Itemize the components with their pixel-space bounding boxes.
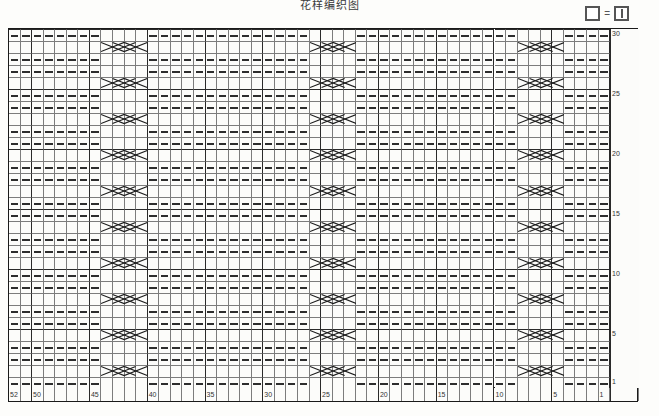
chart-cell[interactable] [206, 365, 218, 377]
chart-cell[interactable] [506, 329, 518, 341]
chart-cell[interactable] [564, 281, 576, 293]
chart-cell[interactable] [182, 353, 194, 365]
chart-cell[interactable] [240, 365, 252, 377]
chart-cell[interactable] [310, 137, 322, 149]
chart-cell[interactable] [310, 77, 322, 89]
chart-cell[interactable] [136, 89, 148, 101]
chart-cell[interactable] [21, 317, 33, 329]
chart-cell[interactable] [310, 233, 322, 245]
chart-cell[interactable] [495, 281, 507, 293]
chart-cell[interactable] [587, 65, 599, 77]
chart-cell[interactable] [390, 77, 402, 89]
chart-cell[interactable] [286, 185, 298, 197]
chart-cell[interactable] [217, 77, 229, 89]
chart-cell[interactable] [321, 53, 333, 65]
chart-cell[interactable] [44, 185, 56, 197]
chart-cell[interactable] [460, 125, 472, 137]
chart-cell[interactable] [240, 341, 252, 353]
chart-cell[interactable] [136, 305, 148, 317]
chart-cell[interactable] [21, 77, 33, 89]
chart-cell[interactable] [32, 341, 44, 353]
chart-cell[interactable] [552, 221, 564, 233]
chart-cell[interactable] [182, 65, 194, 77]
chart-cell[interactable] [460, 41, 472, 53]
chart-cell[interactable] [356, 233, 368, 245]
chart-cell[interactable] [44, 53, 56, 65]
chart-cell[interactable] [125, 197, 137, 209]
chart-cell[interactable] [599, 221, 611, 233]
chart-cell[interactable] [425, 185, 437, 197]
chart-cell[interactable] [425, 77, 437, 89]
chart-cell[interactable] [483, 281, 495, 293]
chart-cell[interactable] [495, 257, 507, 269]
chart-cell[interactable] [367, 185, 379, 197]
chart-cell[interactable] [460, 137, 472, 149]
chart-cell[interactable] [390, 65, 402, 77]
chart-cell[interactable] [414, 101, 426, 113]
chart-cell[interactable] [21, 221, 33, 233]
chart-cell[interactable] [298, 173, 310, 185]
chart-cell[interactable] [483, 257, 495, 269]
chart-cell[interactable] [518, 341, 530, 353]
chart-cell[interactable] [344, 65, 356, 77]
chart-cell[interactable] [101, 161, 113, 173]
chart-cell[interactable] [541, 125, 553, 137]
chart-cell[interactable] [125, 293, 137, 305]
chart-cell[interactable] [171, 329, 183, 341]
chart-cell[interactable] [529, 317, 541, 329]
chart-cell[interactable] [483, 305, 495, 317]
chart-cell[interactable] [298, 329, 310, 341]
chart-cell[interactable] [367, 125, 379, 137]
chart-cell[interactable] [113, 77, 125, 89]
chart-cell[interactable] [275, 305, 287, 317]
chart-cell[interactable] [402, 101, 414, 113]
chart-cell[interactable] [587, 305, 599, 317]
chart-cell[interactable] [587, 113, 599, 125]
chart-cell[interactable] [240, 113, 252, 125]
chart-cell[interactable] [55, 113, 67, 125]
chart-cell[interactable] [344, 329, 356, 341]
chart-cell[interactable] [367, 29, 379, 41]
chart-cell[interactable] [217, 41, 229, 53]
chart-cell[interactable] [310, 221, 322, 233]
chart-cell[interactable] [321, 233, 333, 245]
chart-cell[interactable] [229, 101, 241, 113]
chart-cell[interactable] [356, 329, 368, 341]
chart-cell[interactable] [321, 149, 333, 161]
chart-cell[interactable] [310, 101, 322, 113]
chart-cell[interactable] [78, 221, 90, 233]
chart-cell[interactable] [252, 113, 264, 125]
chart-cell[interactable] [113, 365, 125, 377]
chart-cell[interactable] [55, 77, 67, 89]
chart-cell[interactable] [182, 161, 194, 173]
chart-cell[interactable] [171, 209, 183, 221]
chart-cell[interactable] [344, 353, 356, 365]
chart-cell[interactable] [425, 89, 437, 101]
chart-cell[interactable] [32, 53, 44, 65]
chart-cell[interactable] [552, 41, 564, 53]
chart-cell[interactable] [148, 89, 160, 101]
chart-cell[interactable] [599, 209, 611, 221]
chart-cell[interactable] [414, 29, 426, 41]
chart-cell[interactable] [356, 65, 368, 77]
chart-cell[interactable] [529, 161, 541, 173]
chart-cell[interactable] [564, 65, 576, 77]
chart-cell[interactable] [206, 185, 218, 197]
chart-cell[interactable] [564, 29, 576, 41]
chart-cell[interactable] [9, 77, 21, 89]
chart-cell[interactable] [263, 353, 275, 365]
chart-cell[interactable] [437, 245, 449, 257]
chart-cell[interactable] [425, 257, 437, 269]
chart-cell[interactable] [448, 185, 460, 197]
chart-cell[interactable] [483, 365, 495, 377]
chart-cell[interactable] [402, 89, 414, 101]
chart-cell[interactable] [437, 233, 449, 245]
chart-cell[interactable] [78, 209, 90, 221]
chart-cell[interactable] [471, 257, 483, 269]
chart-cell[interactable] [21, 269, 33, 281]
chart-cell[interactable] [125, 341, 137, 353]
chart-cell[interactable] [125, 305, 137, 317]
chart-cell[interactable] [67, 221, 79, 233]
chart-cell[interactable] [564, 233, 576, 245]
chart-cell[interactable] [333, 137, 345, 149]
